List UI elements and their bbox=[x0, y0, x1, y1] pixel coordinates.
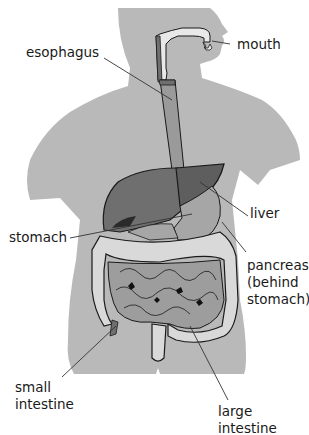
label-liver: liver bbox=[250, 205, 279, 221]
rectum bbox=[152, 324, 166, 361]
label-small-intestine-line2: intestine bbox=[15, 396, 74, 412]
label-pancreas-line1: pancreas bbox=[247, 257, 309, 273]
label-mouth: mouth bbox=[237, 36, 281, 52]
label-stomach: stomach bbox=[9, 229, 67, 245]
label-pancreas-line2: (behind bbox=[247, 274, 299, 290]
label-large-intestine-line1: large bbox=[218, 403, 252, 419]
label-small-intestine-line1: small bbox=[15, 379, 51, 395]
label-esophagus: esophagus bbox=[26, 44, 99, 60]
esophagus-band bbox=[159, 80, 175, 85]
label-pancreas-line3: stomach) bbox=[247, 291, 309, 307]
label-large-intestine-line2: intestine bbox=[218, 420, 277, 435]
